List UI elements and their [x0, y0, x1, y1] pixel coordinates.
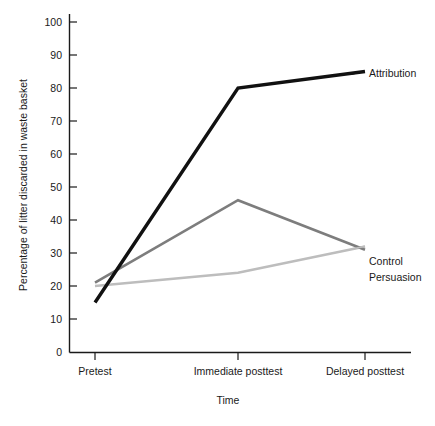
- y-tick-label-50: 50: [50, 181, 62, 193]
- y-axis-ticks: [70, 22, 78, 319]
- y-tick-label-80: 80: [50, 82, 62, 94]
- y-tick-label-90: 90: [50, 49, 62, 61]
- x-axis-title: Time: [217, 394, 240, 406]
- x-tick-label-immediate-posttest: Immediate posttest: [194, 365, 283, 377]
- x-axis-ticks: [95, 353, 365, 361]
- x-tick-label-pretest: Pretest: [78, 365, 111, 377]
- axes-group: [70, 14, 412, 353]
- chart-canvas: 100 90 80 70 60 50 40 30 20 10 0 Pretest…: [0, 0, 435, 426]
- x-axis-tick-labels: Pretest Immediate posttest Delayed postt…: [78, 365, 404, 377]
- y-tick-label-60: 60: [50, 148, 62, 160]
- series-label-attribution: Attribution: [369, 67, 416, 79]
- y-tick-label-40: 40: [50, 214, 62, 226]
- series-label-persuasion: Persuasion: [369, 271, 422, 283]
- y-axis-tick-labels: 100 90 80 70 60 50 40 30 20 10 0: [44, 16, 62, 358]
- y-tick-label-100: 100: [44, 16, 62, 28]
- line-chart-figure: 100 90 80 70 60 50 40 30 20 10 0 Pretest…: [0, 0, 435, 426]
- series-line-attribution: [95, 72, 365, 303]
- series-line-control: [95, 246, 365, 286]
- y-tick-label-20: 20: [50, 280, 62, 292]
- y-tick-label-70: 70: [50, 115, 62, 127]
- y-tick-label-10: 10: [50, 313, 62, 325]
- x-tick-label-delayed-posttest: Delayed posttest: [326, 365, 404, 377]
- y-tick-label-0: 0: [56, 346, 62, 358]
- series-label-control: Control: [369, 255, 403, 267]
- y-tick-label-30: 30: [50, 247, 62, 259]
- y-axis-title: Percentage of litter discarded in waste …: [17, 79, 29, 291]
